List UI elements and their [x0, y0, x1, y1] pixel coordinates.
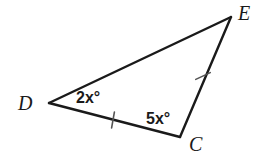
side-CE [180, 17, 231, 137]
angle-label-D: 2x° [76, 89, 100, 106]
vertex-label-D: D [17, 92, 33, 114]
angle-label-C: 5x° [146, 110, 170, 127]
tick-side-CE-mark [196, 73, 211, 80]
vertex-label-E: E [237, 2, 250, 24]
vertex-label-C: C [189, 133, 203, 155]
triangle-diagram: D E C 2x° 5x° [0, 0, 263, 156]
geometry-figure: D E C 2x° 5x° [0, 0, 263, 156]
